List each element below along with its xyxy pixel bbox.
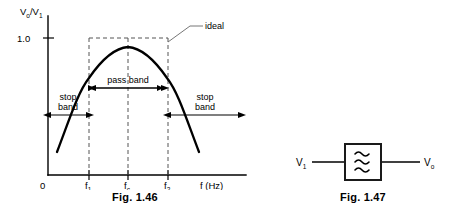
x-axis-label: f (Hz) (200, 180, 223, 190)
stop-band-right-arrow-head-in (163, 112, 171, 118)
figure-1-46-caption: Fig. 1.46 (0, 191, 270, 203)
stop-band-right-label-line1: stop (196, 92, 213, 102)
output-port-label: Vo (424, 157, 435, 170)
stop-band-right-label-line2: band (195, 102, 215, 112)
ideal-label: ideal (205, 21, 224, 31)
bandpass-response-chart: Vo/V1 1.0 0 f1 fc f2 f (Hz) ideal pass b (0, 0, 270, 190)
stop-band-left-arrow-head-out (43, 112, 51, 118)
figure-sheet: Vo/V1 1.0 0 f1 fc f2 f (Hz) ideal pass b (0, 0, 456, 213)
x-tick-label-fc: fc (124, 180, 131, 190)
stop-band-left-arrow-head-in (86, 112, 94, 118)
filter-block-diagram: V1 Vo (270, 0, 456, 190)
stop-band-right-arrow-head-out (238, 112, 246, 118)
svg-text:Vo/V1: Vo/V1 (20, 6, 43, 19)
figure-1-47-caption: Fig. 1.47 (270, 191, 456, 203)
pass-band-label: pass band (107, 75, 149, 85)
figure-1-46: Vo/V1 1.0 0 f1 fc f2 f (Hz) ideal pass b (0, 0, 270, 213)
origin-label: 0 (40, 180, 45, 190)
x-tick-label-f1: f1 (85, 180, 92, 190)
y-tick-label-1p0: 1.0 (17, 33, 30, 44)
x-tick-label-f2: f2 (164, 180, 171, 190)
stop-band-left-label-line2: band (58, 102, 78, 112)
stop-band-left-label-line1: stop (59, 92, 76, 102)
figure-1-47: V1 Vo Fig. 1.47 (270, 0, 456, 213)
input-port-label: V1 (296, 157, 307, 170)
ideal-leader-line (168, 26, 203, 42)
y-axis-label: Vo/V1 (20, 6, 43, 19)
